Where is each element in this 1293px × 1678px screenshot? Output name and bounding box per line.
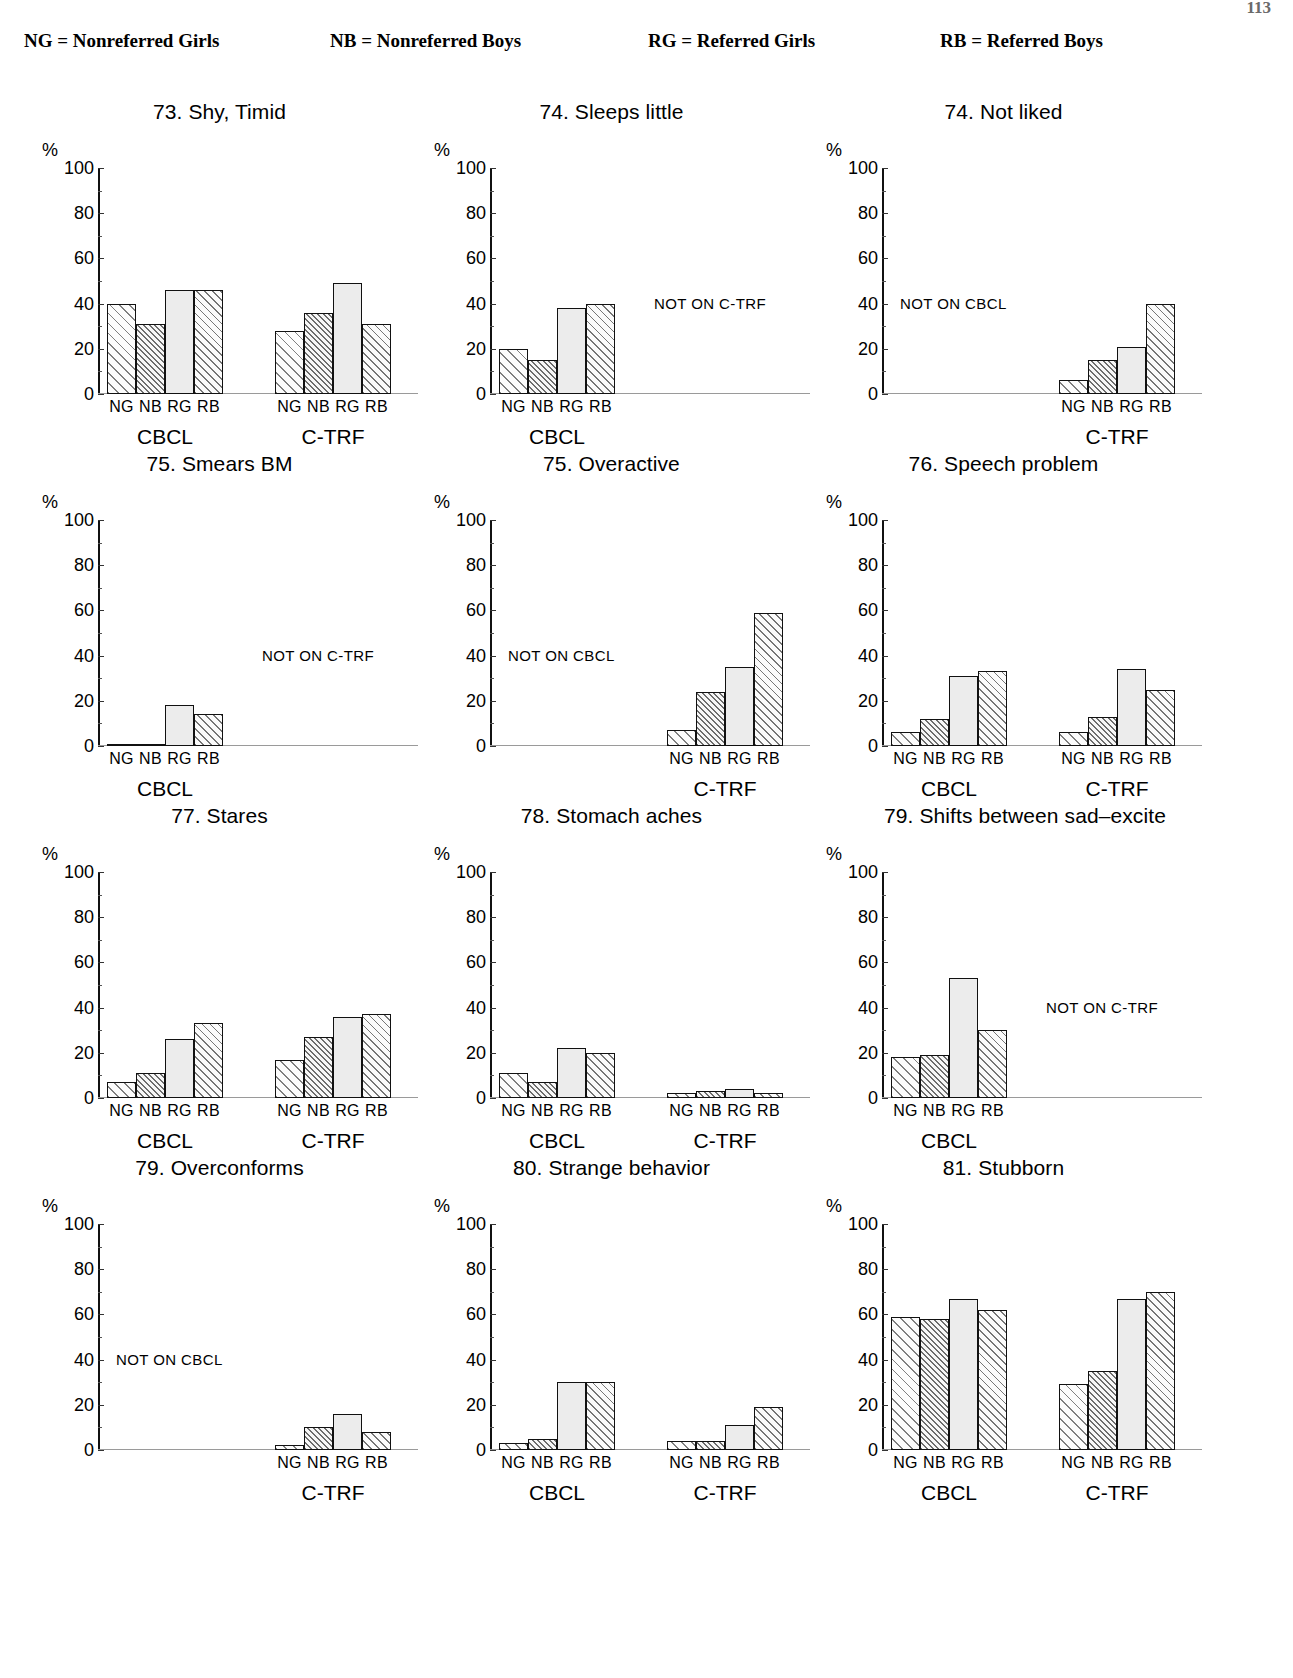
y-axis-label: 80: [798, 908, 878, 926]
bar-group-container: [491, 168, 811, 394]
instrument-label: CBCL: [879, 1481, 1019, 1505]
instrument-label: C-TRF: [263, 425, 403, 449]
chart-panel: 77. Stares%100806040200NGNBRGRBCBCLNGNBR…: [12, 804, 427, 1156]
x-axis-category-label: RB: [190, 750, 227, 768]
bar: [333, 283, 362, 394]
chart-title: 79. Overconforms: [12, 1156, 427, 1180]
y-axis-label: 0: [406, 1441, 486, 1459]
y-axis-tick: [882, 394, 888, 395]
bar: [1146, 304, 1175, 394]
y-axis-label: 0: [14, 1089, 94, 1107]
legend-eq-rg: =: [681, 30, 692, 51]
y-axis-tick: [98, 1450, 104, 1451]
legend-item-nb: NB = Nonreferred Boys: [330, 30, 521, 52]
bar: [949, 1299, 978, 1450]
chart-panel: 78. Stomach aches%100806040200NGNBRGRBCB…: [404, 804, 819, 1156]
chart-plot: %100806040200NGNBRGRBCBCLNGNBRGRBC-TRF: [796, 1196, 1211, 1496]
bar: [586, 1053, 615, 1098]
y-axis-label: 20: [798, 340, 878, 358]
missing-instrument-note: NOT ON C-TRF: [1046, 999, 1158, 1016]
y-axis-label: 80: [406, 1260, 486, 1278]
chart-plot: %100806040200NGNBRGRBCBCLNGNBRGRBC-TRF: [12, 844, 427, 1144]
y-axis-label: 0: [406, 1089, 486, 1107]
x-axis-category-label: RB: [1142, 398, 1179, 416]
bar: [136, 324, 165, 394]
chart-grid: 73. Shy, Timid%100806040200NGNBRGRBCBCLN…: [0, 100, 1293, 1508]
chart-row: 79. Overconforms%100806040200NGNBRGRBC-T…: [0, 1156, 1293, 1508]
bar: [1059, 1384, 1088, 1450]
y-axis-label: 40: [798, 295, 878, 313]
page-number: 113: [1246, 0, 1271, 18]
y-axis-label: 100: [798, 863, 878, 881]
bar: [275, 1445, 304, 1450]
bar: [528, 360, 557, 394]
instrument-label: C-TRF: [263, 1481, 403, 1505]
chart-title: 75. Smears BM: [12, 452, 427, 476]
bar: [362, 1014, 391, 1098]
instrument-label: C-TRF: [655, 777, 795, 801]
bar: [891, 1057, 920, 1098]
bar: [949, 978, 978, 1098]
missing-instrument-note: NOT ON CBCL: [900, 295, 1007, 312]
y-axis-tick: [882, 1098, 888, 1099]
y-axis-tick: [98, 746, 104, 747]
y-axis-unit: %: [42, 844, 58, 865]
chart-panel: 75. Overactive%100806040200NGNBRGRBC-TRF…: [404, 452, 819, 804]
y-axis-label: 60: [798, 249, 878, 267]
y-axis-tick: [98, 1098, 104, 1099]
x-axis-category-label: RB: [750, 1102, 787, 1120]
instrument-label: CBCL: [487, 1481, 627, 1505]
bar: [1146, 690, 1175, 747]
bar: [165, 1039, 194, 1098]
bar: [304, 1427, 333, 1450]
chart-panel: 81. Stubborn%100806040200NGNBRGRBCBCLNGN…: [796, 1156, 1211, 1508]
bar: [978, 1030, 1007, 1098]
chart-panel: 79. Overconforms%100806040200NGNBRGRBC-T…: [12, 1156, 427, 1508]
y-axis-label: 20: [406, 1396, 486, 1414]
bar: [920, 1055, 949, 1098]
x-axis-category-label: RB: [974, 1102, 1011, 1120]
y-axis-label: 40: [406, 999, 486, 1017]
y-axis-label: 40: [14, 295, 94, 313]
y-axis-unit: %: [826, 140, 842, 161]
legend-key-rb: RB: [940, 30, 966, 51]
x-axis-category-label: RB: [582, 398, 619, 416]
y-axis-unit: %: [434, 1196, 450, 1217]
y-axis-tick: [490, 394, 496, 395]
y-axis-label: 20: [14, 1044, 94, 1062]
chart-row: 73. Shy, Timid%100806040200NGNBRGRBCBCLN…: [0, 100, 1293, 452]
y-axis-unit: %: [826, 492, 842, 513]
chart-plot: %100806040200NGNBRGRBCBCLNOT ON C-TRF: [12, 492, 427, 792]
instrument-label: C-TRF: [1047, 425, 1187, 449]
bar: [978, 1310, 1007, 1450]
y-axis-label: 60: [798, 601, 878, 619]
bar: [136, 744, 165, 746]
bar: [107, 304, 136, 394]
instrument-label: CBCL: [487, 425, 627, 449]
y-axis-label: 60: [14, 953, 94, 971]
bar-group-container: [883, 520, 1203, 746]
y-axis-label: 40: [14, 999, 94, 1017]
y-axis-label: 0: [798, 385, 878, 403]
instrument-label: CBCL: [487, 1129, 627, 1153]
bar: [304, 313, 333, 394]
chart-title: 77. Stares: [12, 804, 427, 828]
bar: [362, 324, 391, 394]
y-axis-unit: %: [434, 492, 450, 513]
legend-eq-nb: =: [361, 30, 372, 51]
y-axis-label: 100: [798, 511, 878, 529]
bar: [891, 732, 920, 746]
y-axis-label: 20: [14, 692, 94, 710]
y-axis-label: 80: [14, 556, 94, 574]
y-axis-label: 60: [14, 1305, 94, 1323]
y-axis-label: 0: [406, 385, 486, 403]
legend-label-ng: Nonreferred Girls: [73, 30, 220, 51]
legend-item-ng: NG = Nonreferred Girls: [24, 30, 219, 52]
missing-instrument-note: NOT ON CBCL: [508, 647, 615, 664]
y-axis-label: 80: [798, 204, 878, 222]
x-axis-category-label: RB: [974, 750, 1011, 768]
y-axis-tick: [490, 746, 496, 747]
y-axis-label: 40: [798, 999, 878, 1017]
y-axis-unit: %: [434, 140, 450, 161]
chart-panel: 74. Sleeps little%100806040200NGNBRGRBCB…: [404, 100, 819, 452]
